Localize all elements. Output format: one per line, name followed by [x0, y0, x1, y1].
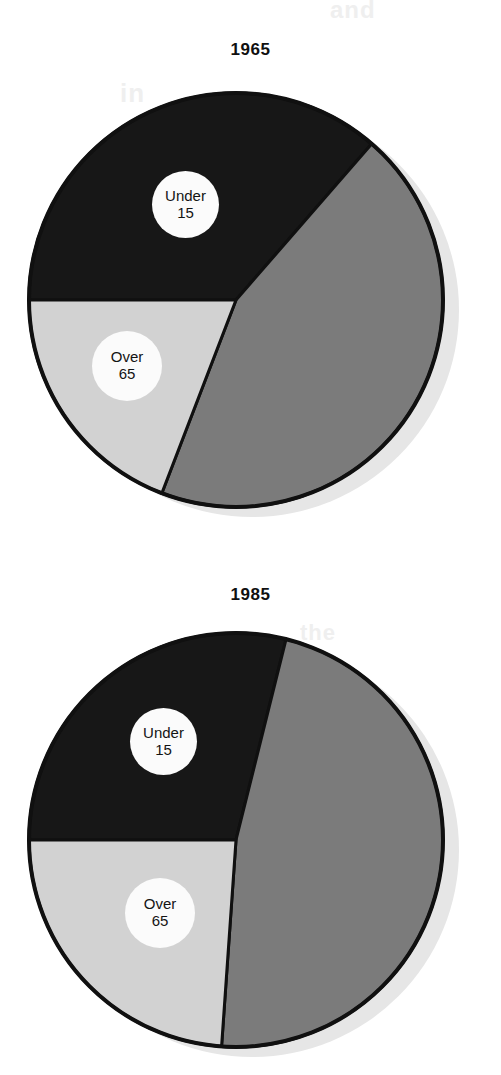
- slice-over-65-1985[interactable]: [29, 840, 236, 1047]
- chart-1985: 1985 Under 15 Over 65: [0, 540, 501, 1075]
- pie-label-over-65-1985-line1: Over: [144, 896, 177, 913]
- chart-title-1965: 1965: [0, 40, 501, 60]
- pie-chart-1965-svg: [0, 70, 501, 540]
- pie-label-over-65-1965-line2: 65: [119, 366, 136, 383]
- pie-label-under-15-1965-line2: 15: [177, 205, 194, 222]
- pie-label-under-15-1985: Under 15: [130, 708, 197, 775]
- chart-1965: 1965 Under 15 Over 65: [0, 0, 501, 540]
- pie-chart-1985-svg: [0, 615, 501, 1075]
- pie-label-under-15-1965: Under 15: [152, 171, 219, 238]
- pie-label-over-65-1965: Over 65: [92, 331, 162, 401]
- pie-chart-1985-area: Under 15 Over 65: [0, 615, 501, 1075]
- pie-label-over-65-1965-line1: Over: [111, 349, 144, 366]
- page-canvas: and in the 1965 Under 15: [0, 0, 501, 1075]
- pie-label-over-65-1985-line2: 65: [152, 913, 169, 930]
- chart-title-1985: 1985: [0, 585, 501, 605]
- pie-label-under-15-1965-line1: Under: [165, 188, 206, 205]
- pie-label-over-65-1985: Over 65: [125, 878, 195, 948]
- pie-label-under-15-1985-line2: 15: [155, 742, 172, 759]
- pie-chart-1965-area: Under 15 Over 65: [0, 70, 501, 540]
- pie-label-under-15-1985-line1: Under: [143, 725, 184, 742]
